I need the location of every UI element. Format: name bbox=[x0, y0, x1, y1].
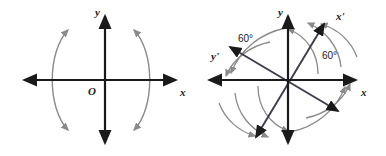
figure-container: x y O x y x' y' 60° 60° bbox=[0, 0, 386, 156]
x-axis-label: x bbox=[360, 86, 367, 98]
origin-label: O bbox=[88, 85, 96, 97]
diagram-svg: x y O x y x' y' 60° 60° bbox=[0, 0, 386, 156]
y-prime-axis-label: y' bbox=[209, 50, 219, 62]
x-prime-axis-label: x' bbox=[335, 10, 345, 22]
y-axis-label: y bbox=[93, 6, 100, 18]
x-axis-label: x bbox=[179, 86, 186, 98]
background bbox=[0, 0, 386, 156]
angle-label-right: 60° bbox=[322, 50, 337, 61]
angle-label-left: 60° bbox=[238, 33, 253, 44]
y-axis-label: y bbox=[276, 6, 283, 18]
